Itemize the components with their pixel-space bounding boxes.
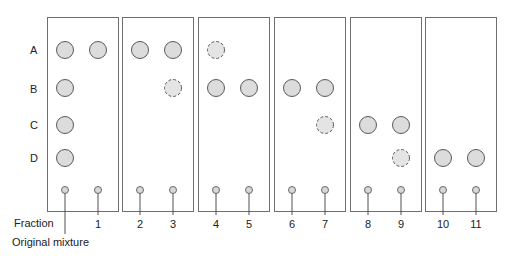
lane-2: 2: [132, 42, 149, 231]
spot-a: [90, 42, 107, 59]
origin-spot: [170, 187, 177, 194]
spot-d: [57, 150, 74, 167]
spot-a: [165, 42, 182, 59]
origin-spot: [289, 187, 296, 194]
origin-spot: [246, 187, 253, 194]
origin-spot: [62, 187, 69, 194]
spot-b-faint: [165, 80, 182, 97]
origin-spot: [213, 187, 220, 194]
origin-spot: [365, 187, 372, 194]
origin-spot: [473, 187, 480, 194]
origin-spot: [322, 187, 329, 194]
spot-d-faint: [393, 150, 410, 167]
lane-5: 5: [241, 80, 258, 231]
spot-d: [435, 150, 452, 167]
fraction-number: 11: [470, 218, 481, 230]
fraction-number: 6: [289, 218, 295, 230]
lane-3: 3: [165, 42, 182, 231]
row-label-c: C: [30, 119, 38, 131]
fraction-number: 5: [246, 218, 252, 230]
plates: [48, 18, 497, 212]
fraction-label: Fraction: [14, 217, 54, 229]
spot-a: [132, 42, 149, 59]
lane-8: 8: [360, 117, 377, 231]
tlc-plate-6: [426, 18, 497, 212]
origin-spot: [440, 187, 447, 194]
lane-7: 7: [317, 80, 334, 231]
lane-1: 1: [90, 42, 107, 231]
row-label-a: A: [30, 44, 38, 56]
spot-b: [57, 80, 74, 97]
original-mixture-label: Original mixture: [12, 236, 89, 248]
spot-b: [317, 80, 334, 97]
spot-a-faint: [208, 42, 225, 59]
fraction-number: 8: [365, 218, 371, 230]
row-labels: A B C D: [30, 44, 38, 164]
tlc-plate-4: [275, 18, 346, 212]
spot-c-faint: [317, 117, 334, 134]
fraction-number: 4: [213, 218, 219, 230]
lane-10: 10: [435, 150, 452, 231]
lanes: 1234567891011: [57, 42, 485, 235]
tlc-plate-5: [351, 18, 422, 212]
fraction-number: 2: [137, 218, 143, 230]
lane-6: 6: [284, 80, 301, 231]
spot-c: [393, 117, 410, 134]
spot-c: [57, 117, 74, 134]
lane-original-mixture: [57, 42, 74, 235]
lane-11: 11: [468, 150, 485, 231]
lane-4: 4: [208, 42, 225, 231]
origin-spot: [398, 187, 405, 194]
spot-b: [208, 80, 225, 97]
origin-spot: [95, 187, 102, 194]
spot-a: [57, 42, 74, 59]
tlc-diagram: A B C D 1234567891011 Fraction Original …: [0, 0, 513, 256]
fraction-number: 3: [170, 218, 176, 230]
row-label-b: B: [30, 83, 37, 95]
spot-b: [241, 80, 258, 97]
row-label-d: D: [30, 152, 38, 164]
fraction-number: 7: [322, 218, 328, 230]
lane-9: 9: [393, 117, 410, 231]
spot-b: [284, 80, 301, 97]
fraction-number: 10: [437, 218, 449, 230]
fraction-number: 9: [398, 218, 404, 230]
spot-d: [468, 150, 485, 167]
spot-c: [360, 117, 377, 134]
fraction-number: 1: [95, 218, 101, 230]
origin-spot: [137, 187, 144, 194]
